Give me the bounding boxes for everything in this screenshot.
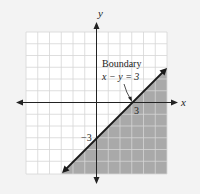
x-axis-left-arrow-icon	[16, 100, 23, 106]
boundary-title: Boundary	[102, 58, 141, 69]
y-axis-label: y	[97, 7, 103, 19]
y-axis-up-arrow-icon	[94, 22, 100, 29]
inequality-graph: y x Boundary x − y = 3 3 −3	[0, 0, 200, 194]
x-axis-right-arrow-icon	[171, 100, 178, 106]
x-intercept-label: 3	[134, 105, 139, 116]
y-axis-down-arrow-icon	[94, 177, 100, 184]
x-axis-label: x	[180, 96, 186, 108]
boundary-equation: x − y = 3	[101, 71, 139, 82]
y-intercept-label: −3	[81, 132, 92, 143]
